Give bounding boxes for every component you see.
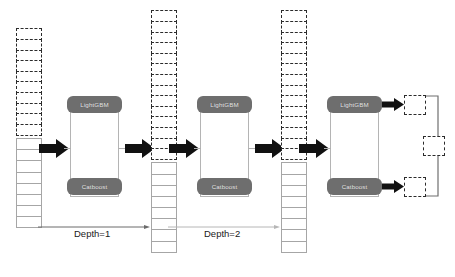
model-catboost-stage-2[interactable]: Catboost: [197, 178, 252, 195]
model-box-1-input-stub: [64, 148, 71, 149]
catboost-output-cell: [404, 177, 426, 197]
augmented-feature-column-2: [281, 12, 307, 253]
model-lightgbm-stage-1[interactable]: LightGBM: [67, 96, 122, 113]
model-lightgbm-stage-2[interactable]: LightGBM: [197, 96, 252, 113]
feature-cell-dashed: [16, 124, 42, 136]
lightgbm-output-arrow: [382, 98, 404, 111]
model-catboost-stage-1[interactable]: Catboost: [67, 178, 122, 195]
catboost-output-arrow: [382, 180, 404, 193]
model-lightgbm-stage-3[interactable]: LightGBM: [327, 96, 382, 113]
depth-label-1: Depth=1: [74, 228, 110, 239]
model-box-2-input-stub: [194, 148, 201, 149]
augmented-feature-column-1: [151, 12, 177, 253]
model-box-3-input-stub: [324, 148, 331, 149]
model-catboost-stage-3[interactable]: Catboost: [327, 178, 382, 195]
input-feature-column: [16, 30, 42, 228]
feature-cell-solid: [281, 241, 307, 253]
lightgbm-output-cell: [404, 95, 426, 115]
feature-cell-solid: [151, 241, 177, 253]
final-output-cell: [423, 136, 445, 156]
depth-label-2: Depth=2: [204, 228, 240, 239]
